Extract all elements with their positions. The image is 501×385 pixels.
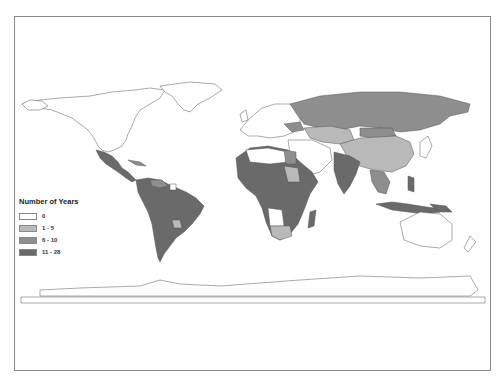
region-antarctica [40,276,478,296]
legend-title: Number of Years [19,197,129,206]
legend-swatch [19,237,37,244]
legend-item-0: 0 [19,210,129,222]
map-legend: Number of Years 0 1 - 5 6 - 10 11 - 28 [19,197,129,258]
region-se-asia [370,170,390,194]
legend-swatch [19,213,37,220]
region-paraguay [172,220,182,228]
region-mexico [96,150,136,182]
region-philippines [408,176,414,192]
region-greenland [160,82,222,112]
region-japan [420,136,432,158]
legend-label: 6 - 10 [42,237,57,243]
region-australia [400,212,452,248]
region-europe [240,104,300,138]
region-new-zealand [464,236,476,252]
legend-label: 11 - 28 [42,249,60,255]
region-egypt [284,150,296,164]
region-uk [240,110,248,122]
region-suriname [170,184,176,190]
region-russia [290,92,470,132]
legend-item-6-10: 6 - 10 [19,234,129,246]
legend-label: 0 [42,213,45,219]
region-madagascar [308,210,316,228]
legend-swatch [19,249,37,256]
region-antarctica-base [21,297,485,303]
region-north-america [22,88,165,152]
region-south-america [136,178,204,262]
region-cuba [128,160,146,166]
world-map [0,0,501,385]
legend-label: 1 - 5 [42,225,54,231]
region-namibia-botswana [268,208,284,226]
region-south-africa [270,226,292,240]
legend-item-1-5: 1 - 5 [19,222,129,234]
legend-item-11-28: 11 - 28 [19,246,129,258]
legend-swatch [19,225,37,232]
